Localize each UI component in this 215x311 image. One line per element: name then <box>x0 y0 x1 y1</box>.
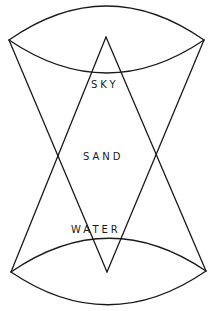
top-lens-inner-arc <box>9 40 204 73</box>
label-water: WATER <box>71 225 121 235</box>
bottom-lens-outer-arc <box>11 271 206 305</box>
sky-sand-water-diagram: SKY SAND WATER <box>0 0 215 311</box>
label-sky: SKY <box>91 80 119 90</box>
label-sand: SAND <box>83 152 124 162</box>
top-lens-outer-arc <box>9 6 204 40</box>
